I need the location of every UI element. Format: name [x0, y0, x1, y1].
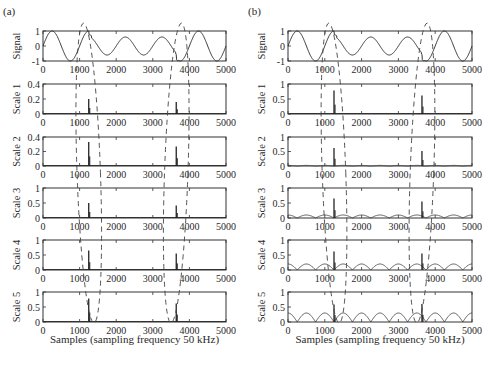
- x-tick-label: 2000: [352, 117, 372, 128]
- x-tick-label: 4000: [425, 64, 445, 75]
- axes-box: [43, 240, 226, 270]
- y-tick-label: 1: [280, 26, 285, 37]
- panel-label-a: (a): [3, 5, 16, 18]
- x-tick-label: 5000: [462, 325, 482, 336]
- signal-line: [288, 31, 472, 61]
- y-tick-label: 0: [35, 161, 40, 172]
- x-tick-label: 3000: [388, 221, 408, 232]
- subplot-scale-2: 01000200030004000500000.51Scale 2: [256, 132, 482, 181]
- x-tick-label: 0: [286, 117, 291, 128]
- baseline-arches: [288, 313, 472, 322]
- panel-a: (a)010002000300040005000-101Signal010002…: [3, 5, 236, 346]
- x-tick-label: 5000: [216, 273, 236, 284]
- x-tick-label: 2000: [106, 273, 126, 284]
- subplot-signal: 010002000300040005000-101Signal: [11, 26, 236, 76]
- y-axis-label: Scale 2: [256, 136, 267, 167]
- y-axis-label: Scale 4: [11, 239, 22, 270]
- x-tick-label: 5000: [462, 64, 482, 75]
- y-tick-label: 0.2: [28, 146, 41, 157]
- y-tick-label: -1: [277, 56, 285, 67]
- panel-label-b: (b): [248, 5, 261, 18]
- y-tick-label: 0: [35, 41, 40, 52]
- x-tick-label: 2000: [352, 221, 372, 232]
- y-axis-label: Scale 3: [256, 188, 267, 219]
- x-tick-label: 4000: [179, 273, 199, 284]
- y-tick-label: 1: [280, 287, 285, 298]
- subplot-scale-3: 01000200030004000500000.51Scale 3: [256, 183, 482, 233]
- x-tick-label: 0: [286, 221, 291, 232]
- x-tick-label: 5000: [216, 64, 236, 75]
- y-tick-label: 0: [280, 109, 285, 120]
- y-tick-label: 0.5: [28, 250, 41, 261]
- x-tick-label: 0: [286, 325, 291, 336]
- x-tick-label: 2000: [106, 221, 126, 232]
- axes-box: [288, 292, 472, 322]
- x-tick-label: 0: [286, 169, 291, 180]
- y-tick-label: 1: [35, 235, 40, 246]
- x-tick-label: 3000: [143, 117, 163, 128]
- y-tick-label: 0.5: [273, 302, 286, 313]
- subplot-scale-5: 01000200030004000500000.51Scale 5: [256, 287, 482, 337]
- axes-box: [288, 84, 472, 114]
- x-tick-label: 3000: [388, 169, 408, 180]
- y-tick-label: 0.5: [273, 198, 286, 209]
- x-tick-label: 1000: [70, 117, 90, 128]
- y-tick-label: 0.2: [28, 94, 41, 105]
- y-tick-label: 0: [280, 213, 285, 224]
- x-tick-label: 0: [41, 169, 46, 180]
- subplot-scale-4: 01000200030004000500000.51Scale 4: [11, 235, 236, 285]
- baseline-arches: [288, 264, 472, 270]
- x-tick-label: 5000: [216, 117, 236, 128]
- x-tick-label: 4000: [425, 273, 445, 284]
- subplot-scale-3: 01000200030004000500000.51Scale 3: [11, 183, 236, 233]
- x-tick-label: 5000: [462, 221, 482, 232]
- y-tick-label: 0.5: [273, 250, 286, 261]
- y-tick-label: 0: [35, 265, 40, 276]
- x-tick-label: 5000: [462, 273, 482, 284]
- x-tick-label: 4000: [179, 169, 199, 180]
- x-tick-label: 0: [41, 64, 46, 75]
- x-tick-label: 2000: [352, 273, 372, 284]
- y-tick-label: 0.5: [273, 146, 286, 157]
- y-axis-label: Signal: [11, 33, 22, 60]
- y-tick-label: 0: [35, 213, 40, 224]
- y-tick-label: 0.5: [28, 198, 41, 209]
- y-tick-label: 1: [35, 183, 40, 194]
- x-tick-label: 5000: [216, 169, 236, 180]
- subplot-signal: 010002000300040005000-101Signal: [256, 26, 482, 76]
- y-tick-label: 0: [35, 109, 40, 120]
- subplot-scale-2: 01000200030004000500000.20.4Scale 2: [11, 132, 236, 181]
- x-axis-label: Samples (sampling frequency 50 kHz): [50, 333, 220, 346]
- y-tick-label: 0: [35, 317, 40, 328]
- axes-box: [43, 292, 226, 322]
- y-tick-label: 1: [280, 235, 285, 246]
- axes-box: [43, 84, 226, 114]
- x-tick-label: 2000: [106, 117, 126, 128]
- y-tick-label: 0.5: [273, 94, 286, 105]
- y-axis-label: Scale 4: [256, 239, 267, 270]
- x-tick-label: 1000: [315, 64, 335, 75]
- y-tick-label: 0: [280, 265, 285, 276]
- x-tick-label: 1000: [70, 64, 90, 75]
- y-axis-label: Scale 2: [11, 136, 22, 167]
- subplot-scale-4: 01000200030004000500000.51Scale 4: [256, 235, 482, 285]
- x-tick-label: 2000: [352, 169, 372, 180]
- y-tick-label: 0.4: [28, 79, 41, 90]
- x-tick-label: 0: [41, 325, 46, 336]
- x-tick-label: 2000: [106, 64, 126, 75]
- subplot-scale-1: 01000200030004000500000.20.4Scale 1: [11, 79, 236, 129]
- signal-line: [43, 31, 226, 61]
- x-tick-label: 4000: [425, 221, 445, 232]
- x-tick-label: 3000: [143, 273, 163, 284]
- y-tick-label: 0: [280, 317, 285, 328]
- axes-box: [288, 188, 472, 218]
- y-axis-label: Scale 3: [11, 188, 22, 219]
- x-tick-label: 2000: [106, 169, 126, 180]
- y-tick-label: 1: [280, 132, 285, 143]
- axes-box: [43, 188, 226, 218]
- x-tick-label: 4000: [179, 221, 199, 232]
- y-tick-label: 0.4: [28, 132, 41, 143]
- y-axis-label: Scale 1: [256, 84, 267, 115]
- x-tick-label: 0: [41, 117, 46, 128]
- panel-b: (b)010002000300040005000-101Signal010002…: [248, 5, 482, 346]
